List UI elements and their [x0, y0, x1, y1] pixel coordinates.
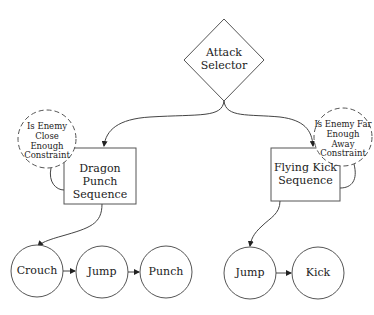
dragon-punch-label-line2: Sequence	[64, 188, 136, 201]
selector-label-line2: Selector	[184, 59, 264, 72]
selector-label: Attack Selector	[184, 46, 264, 72]
flying-kick-label: Flying Kick Sequence	[271, 161, 340, 187]
constraint-left-line3: Constraint	[19, 151, 75, 161]
constraint-right-line2: Enough Away	[314, 130, 372, 150]
edge-selector-to-flying-kick	[224, 101, 313, 146]
action-kick-label: Kick	[292, 266, 344, 279]
constraint-left-line2: Close Enough	[19, 132, 75, 152]
edge-flying-kick-to-jump	[250, 201, 280, 246]
selector-label-line1: Attack	[184, 46, 264, 59]
action-jump-left-label: Jump	[76, 265, 128, 278]
dragon-punch-label: Dragon Punch Sequence	[64, 162, 136, 202]
flying-kick-label-line2: Sequence	[271, 174, 340, 187]
close-enough-constraint-label: Is Enemy Close Enough Constraint	[19, 122, 75, 161]
dragon-punch-label-line1: Dragon Punch	[64, 162, 136, 188]
constraint-link-right	[340, 164, 355, 188]
constraint-link-left	[50, 168, 64, 190]
far-enough-constraint-label: Is Enemy Far Enough Away Constraint	[314, 120, 372, 159]
constraint-right-line3: Constraint	[314, 149, 372, 159]
action-jump-right-label: Jump	[224, 266, 276, 279]
action-crouch-label: Crouch	[11, 264, 63, 277]
flying-kick-label-line1: Flying Kick	[271, 161, 340, 174]
edge-dragon-punch-to-crouch	[38, 204, 102, 246]
action-punch-label: Punch	[140, 265, 192, 278]
edge-selector-to-dragon-punch	[104, 101, 224, 146]
